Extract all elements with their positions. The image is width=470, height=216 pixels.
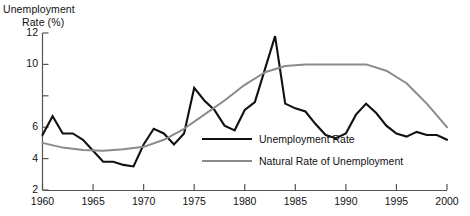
y-axis-tick-label: 12 <box>10 26 38 38</box>
x-axis-tick-label: 1985 <box>275 195 315 207</box>
series-line-natural-rate <box>43 64 448 150</box>
x-axis-tick-label: 1965 <box>73 195 113 207</box>
legend-label-unemployment-rate: Unemployment Rate <box>259 133 355 145</box>
y-axis-ticks <box>43 33 49 190</box>
series-line-unemployment-rate <box>43 36 448 166</box>
y-axis-tick-label: 4 <box>10 152 38 164</box>
y-axis-tick-label: 2 <box>10 183 38 195</box>
y-axis-tick-label: 10 <box>10 57 38 69</box>
data-series-group <box>43 36 448 166</box>
x-axis-tick-label: 1960 <box>23 195 63 207</box>
x-axis-tick-label: 1995 <box>376 195 416 207</box>
x-axis-tick-label: 1975 <box>174 195 214 207</box>
legend-swatches <box>202 139 252 161</box>
x-axis-tick-label: 1990 <box>326 195 366 207</box>
plot-area <box>0 0 470 216</box>
x-axis-tick-label: 1970 <box>124 195 164 207</box>
legend-label-natural-rate: Natural Rate of Unemployment <box>259 155 403 167</box>
unemployment-rate-chart: Unemployment Rate (%) 2461012 1960196519… <box>0 0 470 216</box>
y-axis-tick-label: 6 <box>10 120 38 132</box>
x-axis-tick-label: 2000 <box>427 195 467 207</box>
x-axis-tick-label: 1980 <box>225 195 265 207</box>
x-axis-ticks <box>43 184 448 190</box>
